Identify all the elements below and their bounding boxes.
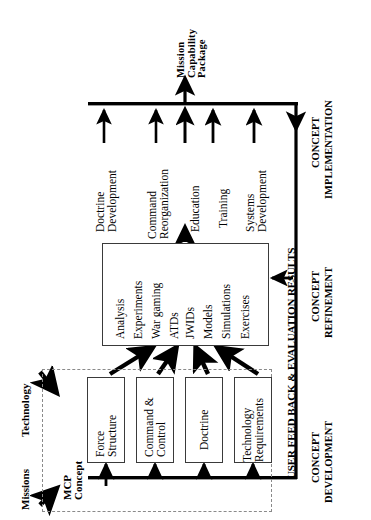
diagram-canvas: Mission Capability Package Doctrine Deve… [0, 0, 371, 520]
implementation-label-systems-development: Systems Development [245, 170, 268, 232]
development-label-doctrine: Doctrine [199, 410, 211, 450]
phase-line2-development: DEVELOPMENT [324, 421, 335, 503]
mission-capability-package-label: Mission Capability Package [176, 29, 208, 78]
mcp-concept-label: MCP Concept [62, 461, 84, 500]
refinement-item-atds: ATDs [169, 312, 181, 339]
phase-line2-refinement: REFINEMENT [324, 267, 335, 338]
development-label-technology-requirements: Technology Requirements [242, 398, 265, 462]
refinement-item-experiments: Experiments [133, 281, 145, 339]
refinement-item-exercises: Exercises [240, 295, 252, 339]
phase-line1-development: CONCEPT [311, 432, 322, 483]
implementation-label-education: Education [190, 185, 202, 232]
implementation-label-doctrine-development: Doctrine Development [95, 170, 118, 232]
implementation-label-training: Training [218, 189, 230, 228]
refinement-item-analysis: Analysis [115, 299, 127, 339]
refinement-item-jwids: JWIDs [185, 307, 197, 339]
refinement-item-models: Models [203, 305, 215, 340]
development-label-command-control: Command & Control [144, 397, 167, 457]
phase-line1-refinement: CONCEPT [311, 271, 322, 322]
input-label-technology: Technology [20, 384, 31, 437]
refinement-item-war-gaming: War gaming [151, 283, 163, 339]
development-label-force-structure: Force Structure [95, 415, 118, 457]
phase-line1-implementation: CONCEPT [311, 117, 322, 168]
refinement-item-simulations: Simulations [221, 284, 233, 339]
implementation-label-command-reorganization: Command Reorganization [147, 169, 170, 239]
phase-line2-implementation: IMPLEMENTATION [324, 100, 335, 199]
implementation-bus-bar [88, 102, 298, 105]
input-label-missions: Missions [20, 469, 31, 510]
feedback-label: USER FEED BACK & EVALUATION RESULTS [286, 248, 297, 479]
